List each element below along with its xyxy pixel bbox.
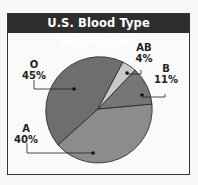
label-a-name: A [14,123,38,134]
label-a: A 40% [14,123,38,145]
label-ab-name: AB [132,42,156,53]
label-b-name: B [154,63,178,74]
label-o-name: O [22,59,46,70]
label-o-pct: 45% [22,70,46,81]
label-a-pct: 40% [14,134,38,145]
label-b-pct: 11% [154,74,178,85]
label-ab: AB 4% [132,42,156,64]
label-o: O 45% [22,59,46,81]
pie-chart [0,0,198,185]
label-ab-pct: 4% [132,53,156,64]
label-b: B 11% [154,63,178,85]
